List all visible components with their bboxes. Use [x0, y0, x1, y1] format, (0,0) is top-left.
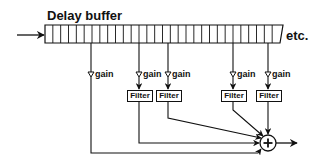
gain-label: gain [95, 70, 114, 79]
path-tap-2 [139, 102, 259, 143]
delay-buffer-diagram: Delay buffer etc. gain gain gain gain ga… [0, 0, 321, 159]
gain-triangle-icon [230, 72, 236, 77]
diagram-title: Delay buffer [47, 9, 122, 22]
path-tap-3 [168, 102, 261, 138]
path-tap-4 [233, 102, 263, 136]
delay-buffer [45, 25, 283, 43]
filter-box: Filter [221, 90, 247, 102]
filter-box: Filter [256, 90, 282, 102]
gain-label: gain [143, 70, 162, 79]
gain-label: gain [272, 70, 291, 79]
gain-label: gain [172, 70, 191, 79]
gain-triangle-icon [265, 72, 271, 77]
path-tap-1 [91, 77, 261, 153]
continuation-label: etc. [286, 29, 308, 42]
diagram-canvas [0, 0, 321, 159]
filter-box: Filter [156, 90, 182, 102]
filter-box: Filter [127, 90, 153, 102]
gain-triangle-icon [165, 72, 171, 77]
gain-triangle-icon [136, 72, 142, 77]
gain-label: gain [237, 70, 256, 79]
summing-node [260, 135, 276, 151]
gain-triangle-icon [88, 72, 94, 77]
